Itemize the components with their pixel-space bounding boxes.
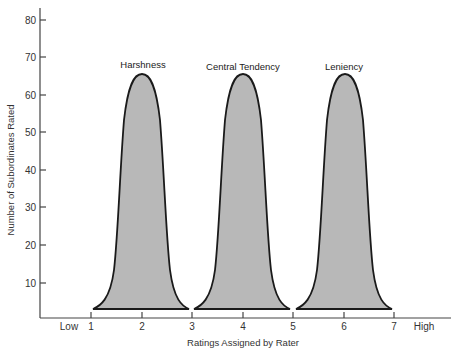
x-tick-label: 3 <box>189 321 195 332</box>
x-tick-label: 7 <box>391 321 397 332</box>
x-tick-label: 4 <box>240 321 246 332</box>
y-tick-label: 70 <box>25 52 37 63</box>
x-tick-label: 5 <box>290 321 296 332</box>
x-high-label: High <box>414 321 435 332</box>
curve-label-harshness: Harshness <box>120 59 166 70</box>
curve-label-leniency: Leniency <box>325 61 363 72</box>
rating-errors-chart: Number of Subordinates Rated 10 20 30 40… <box>0 0 456 351</box>
distribution-curves <box>93 74 392 309</box>
x-low-label: Low <box>60 321 79 332</box>
x-tick-label: 2 <box>139 321 145 332</box>
y-ticks: 10 20 30 40 50 60 70 80 <box>25 15 46 289</box>
y-tick-label: 20 <box>25 240 37 251</box>
y-tick-label: 40 <box>25 165 37 176</box>
curve-central-tendency <box>194 74 290 309</box>
y-axis-title: Number of Subordinates Rated <box>5 105 16 236</box>
y-tick-label: 10 <box>25 278 37 289</box>
curve-harshness <box>93 74 189 309</box>
x-ticks: Low 1 2 3 4 5 6 7 High <box>60 312 434 332</box>
x-axis-title: Ratings Assigned by Rater <box>187 337 299 348</box>
y-tick-label: 60 <box>25 90 37 101</box>
x-tick-label: 6 <box>341 321 347 332</box>
x-tick-label: 1 <box>88 321 94 332</box>
y-tick-label: 30 <box>25 202 37 213</box>
curve-label-central-tendency: Central Tendency <box>206 61 280 72</box>
y-tick-label: 80 <box>25 15 37 26</box>
curve-leniency <box>296 74 392 309</box>
y-tick-label: 50 <box>25 127 37 138</box>
